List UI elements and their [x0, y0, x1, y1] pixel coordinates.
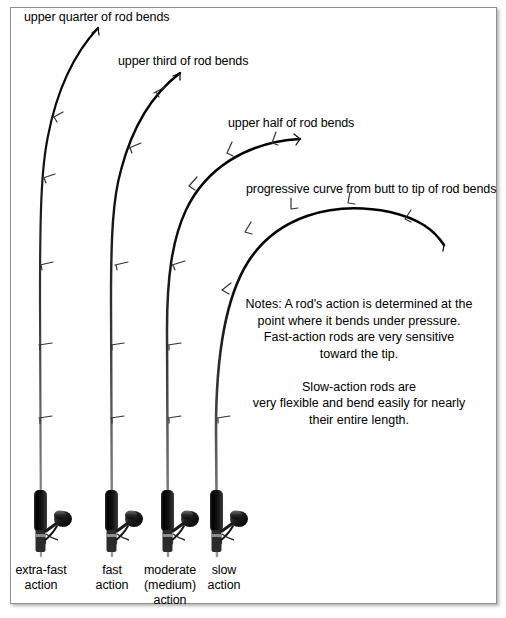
rod-label-moderate: moderate (medium) action: [136, 563, 204, 608]
reel-seat-ring: [212, 534, 222, 537]
rod-label-slow: slow action: [196, 563, 252, 593]
callout-slow: progressive curve from butt to tip of ro…: [246, 182, 496, 196]
callout-extra-fast: upper quarter of rod bends: [24, 10, 169, 24]
rod-guides: [111, 87, 165, 423]
rod-grip: [210, 490, 223, 532]
reel-seat-ring: [107, 534, 117, 537]
rod-grip: [34, 490, 47, 532]
rod-blank: [111, 73, 180, 556]
rod-extra-fast-graphic: [34, 28, 99, 556]
rod-guides: [39, 112, 63, 423]
rod-blank: [40, 28, 98, 556]
rod-action-figure: upper quarter of rod bends upper third o…: [0, 0, 506, 618]
rod-label-extra-fast: extra-fast action: [8, 563, 74, 593]
rod-label-fast: fast action: [84, 563, 140, 593]
reel-seat-ring: [36, 534, 46, 537]
rod-grip: [161, 490, 174, 532]
notes-block: Notes: A rod's action is determined at t…: [236, 296, 482, 428]
callout-moderate: upper half of rod bends: [228, 116, 354, 130]
callout-fast: upper third of rod bends: [118, 54, 248, 68]
rod-grip: [105, 490, 118, 532]
reel-seat-ring: [163, 534, 173, 537]
